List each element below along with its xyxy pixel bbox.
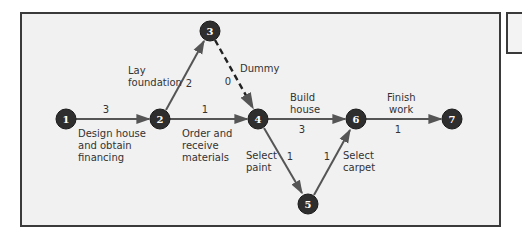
node-6-label: 6 <box>353 114 360 125</box>
node-4-label: 4 <box>255 114 262 125</box>
duration-4-6: 3 <box>299 124 305 135</box>
activity-label-2-3-line1: Lay <box>128 65 146 76</box>
duration-2-4: 1 <box>202 104 208 115</box>
node-3-label: 3 <box>207 26 214 37</box>
activity-label-4-5-line1: Select <box>246 150 277 161</box>
activity-label-1-2-line1: Design house <box>78 128 146 139</box>
duration-1-2: 3 <box>103 104 109 115</box>
duration-3-4: 0 <box>225 76 231 87</box>
activity-label-2-3-line2: foundation <box>128 77 182 88</box>
node-5: 5 <box>298 194 318 214</box>
duration-6-7: 1 <box>395 124 401 135</box>
activity-label-2-4-line1: Order and <box>182 128 232 139</box>
arrow-2-3 <box>166 41 204 110</box>
node-7-label: 7 <box>449 114 456 125</box>
activity-label-5-6-line2: carpet <box>343 162 375 173</box>
activity-label-2-4-line2: receive <box>182 140 219 151</box>
node-4: 4 <box>248 109 268 129</box>
node-5-label: 5 <box>305 199 312 210</box>
duration-4-5: 1 <box>287 151 293 162</box>
duration-2-3: 2 <box>186 78 192 89</box>
node-2-label: 2 <box>157 114 164 125</box>
node-7: 7 <box>442 109 462 129</box>
activity-label-1-2-line3: financing <box>78 152 124 163</box>
activity-label-5-6-line1: Select <box>343 150 374 161</box>
activity-label-4-6-line1: Build <box>290 92 315 103</box>
activity-label-4-5-line2: paint <box>246 162 272 173</box>
activity-label-3-4: Dummy <box>240 63 280 74</box>
activity-label-1-2-line2: and obtain <box>78 140 132 151</box>
activity-label-4-6-line2: house <box>290 104 320 115</box>
node-1: 1 <box>56 109 76 129</box>
node-2: 2 <box>150 109 170 129</box>
arrow-3-4-dummy <box>215 40 253 108</box>
node-1-label: 1 <box>63 114 70 125</box>
duration-5-6: 1 <box>324 151 330 162</box>
activity-label-6-7-line1: Finish <box>387 92 415 103</box>
activity-label-2-4-line3: materials <box>182 152 229 163</box>
node-3: 3 <box>200 21 220 41</box>
node-6: 6 <box>346 109 366 129</box>
activity-label-6-7-line2: work <box>389 104 413 115</box>
